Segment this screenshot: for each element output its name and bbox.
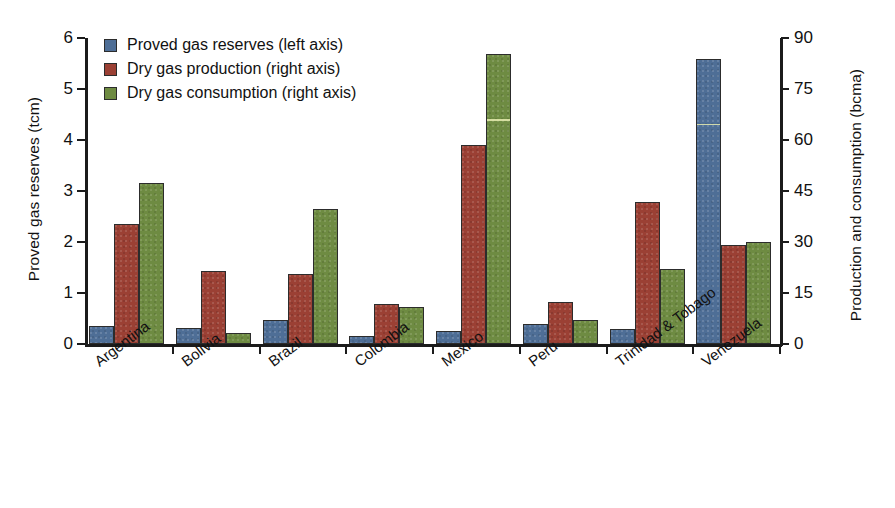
category-separator-tick [779,345,781,354]
left-axis-tick [77,37,85,39]
chart-legend: Proved gas reserves (left axis)Dry gas p… [104,33,356,105]
scan-line-artifact [487,119,510,121]
right-axis-tick-label: 90 [794,29,840,46]
bar-group [610,38,685,344]
category-separator-tick [259,345,261,354]
category-separator-tick [172,345,174,354]
category-separator-tick [519,345,521,354]
legend-item-consumption[interactable]: Dry gas consumption (right axis) [104,81,356,105]
left-axis-tick-label: 5 [33,80,73,97]
legend-swatch-icon-reserves [104,39,117,52]
right-axis-title: Production and consumption (bcma) [847,45,865,345]
left-axis-tick-label: 0 [33,335,73,352]
right-axis-tick [781,88,789,90]
left-axis-tick [77,292,85,294]
left-axis-tick [77,343,85,345]
legend-item-reserves[interactable]: Proved gas reserves (left axis) [104,33,356,57]
bar-group [349,38,424,344]
right-axis-tick [781,190,789,192]
right-axis-tick-label: 75 [794,80,840,97]
right-axis-tick-label: 60 [794,131,840,148]
right-axis-tick [781,292,789,294]
legend-label: Proved gas reserves (left axis) [127,36,343,54]
legend-label: Dry gas production (right axis) [127,60,340,78]
left-axis-tick [77,241,85,243]
bar-production[interactable] [461,145,486,344]
bar-production[interactable] [288,274,313,344]
legend-swatch-icon-consumption [104,87,117,100]
left-axis-tick-label: 4 [33,131,73,148]
bar-consumption[interactable] [226,333,251,344]
left-axis-tick-label: 6 [33,29,73,46]
legend-item-production[interactable]: Dry gas production (right axis) [104,57,356,81]
right-axis-tick [781,37,789,39]
bar-group [436,38,511,344]
left-axis-tick-label: 3 [33,182,73,199]
right-axis-tick-label: 15 [794,284,840,301]
right-axis-tick-label: 0 [794,335,840,352]
bar-consumption[interactable] [313,209,338,344]
category-separator-tick [606,345,608,354]
bar-group [523,38,598,344]
left-axis-line [85,38,88,346]
right-axis-tick [781,343,789,345]
scan-line-artifact [697,124,720,126]
right-axis-tick-label: 30 [794,233,840,250]
legend-label: Dry gas consumption (right axis) [127,84,356,102]
left-axis-tick-label: 1 [33,284,73,301]
bar-consumption[interactable] [486,54,511,344]
left-axis-tick-label: 2 [33,233,73,250]
category-separator-tick [345,345,347,354]
bar-consumption[interactable] [573,320,598,344]
right-axis-tick [781,139,789,141]
left-axis-tick [77,190,85,192]
gas-chart-figure: Proved gas reserves (tcm) Production and… [0,0,895,508]
legend-swatch-icon-production [104,63,117,76]
right-axis-tick [781,241,789,243]
right-axis-tick-label: 45 [794,182,840,199]
category-separator-tick [692,345,694,354]
left-axis-tick [77,88,85,90]
category-separator-tick [432,345,434,354]
left-axis-tick [77,139,85,141]
